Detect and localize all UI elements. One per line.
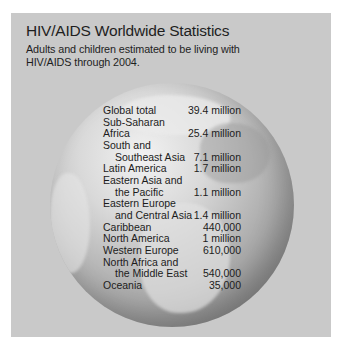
statistics-panel: HIV/AIDS Worldwide Statistics Adults and… — [11, 13, 331, 337]
table-row: Oceania 35,000 — [103, 280, 241, 292]
region-value: 610,000 — [203, 245, 241, 257]
region-label: Oceania — [103, 280, 142, 292]
region-value: 1.1 million — [194, 187, 241, 199]
region-value: 35,000 — [209, 280, 241, 292]
table-row: Global total 39.4 million — [103, 105, 241, 117]
region-name: Western Europe — [103, 245, 179, 257]
page-title: HIV/AIDS Worldwide Statistics — [26, 22, 229, 40]
region-label: Eastern Asia and the Pacific — [103, 175, 182, 198]
table-row: Eastern Europe and Central Asia 1.4 mill… — [103, 198, 241, 221]
table-row: Sub-Saharan Africa 25.4 million — [103, 117, 241, 140]
region-name: Global total — [103, 105, 156, 117]
region-name: Eastern Asia and — [103, 175, 182, 187]
region-label: South and Southeast Asia — [103, 140, 185, 163]
region-value: 25.4 million — [188, 128, 241, 140]
region-value: 39.4 million — [188, 105, 241, 117]
region-value: 1.4 million — [194, 210, 241, 222]
landmass-americas — [50, 173, 90, 273]
region-name-continued: and Central Asia — [103, 210, 192, 222]
table-row: South and Southeast Asia 7.1 million — [103, 140, 241, 163]
region-label: Global total — [103, 105, 156, 117]
subtitle: Adults and children estimated to be livi… — [26, 43, 266, 69]
region-label: Eastern Europe and Central Asia — [103, 198, 192, 221]
statistics-table: Global total 39.4 million Sub-Saharan Af… — [103, 105, 241, 292]
region-label: Sub-Saharan Africa — [103, 117, 188, 140]
region-value: 1.7 million — [194, 163, 241, 175]
region-label: North Africa and the Middle East — [103, 257, 187, 280]
region-name: South and — [103, 140, 185, 152]
table-row: North Africa and the Middle East 540,000 — [103, 257, 241, 280]
region-label: Western Europe — [103, 245, 179, 257]
region-name: Sub-Saharan Africa — [103, 117, 188, 140]
table-row: Western Europe 610,000 — [103, 245, 241, 257]
table-row: Eastern Asia and the Pacific 1.1 million — [103, 175, 241, 198]
region-name: Oceania — [103, 280, 142, 292]
